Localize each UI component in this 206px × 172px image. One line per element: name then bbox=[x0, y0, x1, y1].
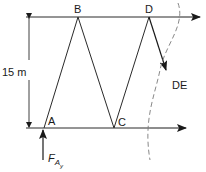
reaction-force-label-subsub: y bbox=[60, 163, 63, 169]
dimension-label: 15 m bbox=[2, 67, 26, 78]
member-CD bbox=[114, 17, 149, 128]
node-label-b: B bbox=[74, 4, 81, 15]
node-label-d: D bbox=[145, 4, 153, 15]
member-force-label-de: DE bbox=[172, 80, 187, 91]
diagonal-members bbox=[44, 17, 166, 128]
reaction-force-label-main: F bbox=[48, 152, 55, 164]
node-label-c: C bbox=[118, 117, 126, 128]
member-BC bbox=[78, 17, 114, 128]
member-DE bbox=[149, 17, 166, 70]
reaction-force-label: FAy bbox=[48, 153, 63, 164]
node-label-a: A bbox=[48, 116, 55, 127]
member-AB bbox=[44, 17, 78, 128]
